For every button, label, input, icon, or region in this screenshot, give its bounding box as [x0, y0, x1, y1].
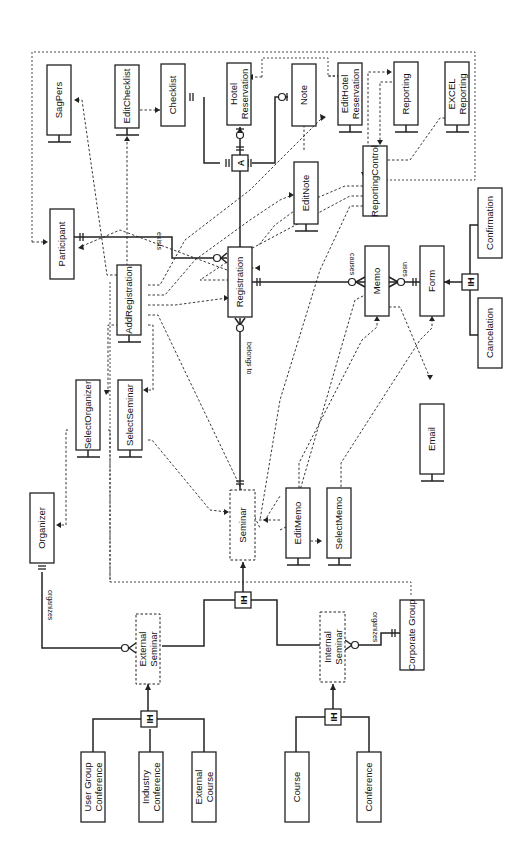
svg-text:Conference: Conference	[151, 762, 162, 811]
svg-text:Reporting: Reporting	[400, 73, 411, 114]
svg-text:Note: Note	[298, 85, 309, 105]
entity-memo[interactable]: Memo	[365, 246, 389, 316]
svg-text:Industry: Industry	[140, 770, 151, 804]
label-belongs-to: belongs to	[245, 342, 253, 374]
label-exists: exists	[156, 232, 163, 250]
entity-external-course[interactable]: External Course	[192, 752, 216, 822]
label-organizes-internal: organizes	[371, 612, 379, 643]
entity-excel-reporting[interactable]: EXCEL Reporting	[445, 62, 469, 132]
svg-text:IH: IH	[466, 278, 476, 287]
entity-course[interactable]: Course	[285, 752, 309, 822]
entity-editmemo[interactable]: EditMemo	[286, 488, 310, 565]
svg-text:Course: Course	[204, 772, 215, 803]
svg-text:Internal: Internal	[322, 631, 333, 663]
svg-text:Confirmation: Confirmation	[484, 196, 495, 250]
entity-corporate-group[interactable]: Corporate Group	[400, 599, 424, 670]
svg-text:Seminar: Seminar	[333, 629, 344, 664]
svg-text:Seminar: Seminar	[237, 507, 248, 542]
svg-text:AddRegistration: AddRegistration	[123, 266, 134, 334]
svg-text:SelectMemo: SelectMemo	[333, 497, 344, 550]
label-organizes-external: organizes	[46, 590, 54, 621]
svg-text:Memo: Memo	[371, 268, 382, 294]
aggregation-symbol: A	[232, 155, 248, 171]
inheritance-symbol-form: IH	[462, 274, 478, 290]
entity-organizer[interactable]: Organizer	[30, 493, 54, 563]
svg-text:EditChecklist: EditChecklist	[121, 68, 132, 123]
svg-text:Conference: Conference	[363, 762, 374, 811]
svg-text:SagPers: SagPers	[53, 82, 64, 119]
svg-text:Hotel: Hotel	[228, 83, 239, 105]
entity-reporting[interactable]: Reporting	[394, 62, 418, 132]
svg-text:ReportingControl: ReportingControl	[369, 145, 380, 217]
entity-cancelation[interactable]: Cancelation	[478, 298, 502, 368]
svg-text:Reporting: Reporting	[457, 73, 468, 114]
svg-text:User Group: User Group	[82, 762, 93, 811]
entity-selectorganizer[interactable]: SelectOrganizer	[76, 380, 100, 457]
entity-sagpers[interactable]: SagPers	[47, 65, 71, 142]
svg-text:EditMemo: EditMemo	[292, 502, 303, 545]
svg-text:EditHotel: EditHotel	[339, 75, 350, 114]
entity-hotel-reservation[interactable]: Hotel Reservation	[227, 63, 251, 125]
entity-email[interactable]: Email	[420, 404, 444, 481]
svg-text:Reservation: Reservation	[350, 69, 361, 120]
label-causes: causes	[349, 253, 356, 276]
entity-editchecklist[interactable]: EditChecklist	[115, 65, 139, 135]
svg-text:IH: IH	[329, 713, 339, 722]
svg-text:Email: Email	[426, 427, 437, 451]
svg-text:Cancelation: Cancelation	[484, 308, 495, 358]
entity-selectseminar[interactable]: SelectSeminar	[118, 380, 142, 457]
svg-text:Reservation: Reservation	[239, 69, 250, 120]
entity-seminar[interactable]: Seminar	[230, 490, 255, 560]
svg-text:Conference: Conference	[93, 762, 104, 811]
entity-confirmation[interactable]: Confirmation	[478, 188, 502, 258]
inheritance-symbol-internal: IH	[325, 709, 341, 725]
entity-note[interactable]: Note	[292, 64, 316, 126]
inheritance-symbol-external: IH	[141, 711, 157, 727]
entity-user-group-conference[interactable]: User Group Conference	[81, 752, 105, 822]
entity-external-seminar[interactable]: External Seminar	[136, 614, 160, 684]
label-uses: uses	[402, 262, 409, 277]
svg-text:Seminar: Seminar	[148, 631, 159, 666]
entity-checklist[interactable]: Checklist	[161, 64, 185, 126]
svg-text:EXCEL: EXCEL	[446, 78, 457, 109]
entity-participant[interactable]: Participant	[50, 209, 74, 279]
entity-industry-conference[interactable]: Industry Conference	[139, 752, 163, 822]
entity-edithotel-reservation[interactable]: EditHotel Reservation	[338, 63, 362, 132]
svg-text:External: External	[193, 770, 204, 805]
entity-editnote[interactable]: EditNote	[294, 162, 318, 231]
svg-text:Organizer: Organizer	[36, 507, 47, 549]
frame-seminar-corporate	[110, 282, 411, 597]
svg-text:IH: IH	[145, 715, 155, 724]
svg-text:External: External	[137, 632, 148, 667]
inheritance-symbol-seminar: IH	[235, 592, 251, 608]
entity-registration[interactable]: Registration	[228, 247, 252, 317]
svg-text:Checklist: Checklist	[167, 75, 178, 114]
entity-selectmemo[interactable]: SelectMemo	[327, 488, 351, 565]
svg-text:Registration: Registration	[234, 257, 245, 308]
entity-internal-seminar[interactable]: Internal Seminar	[320, 612, 345, 682]
svg-text:SelectSeminar: SelectSeminar	[124, 384, 135, 446]
svg-text:SelectOrganizer: SelectOrganizer	[82, 381, 93, 449]
entity-form[interactable]: Form	[420, 246, 444, 316]
svg-text:Form: Form	[426, 270, 437, 292]
svg-text:IH: IH	[239, 596, 249, 605]
entity-addregistration[interactable]: AddRegistration	[117, 265, 141, 342]
svg-text:EditNote: EditNote	[300, 175, 311, 211]
svg-text:Course: Course	[291, 772, 302, 803]
svg-text:Corporate Group: Corporate Group	[406, 599, 417, 670]
svg-text:Participant: Participant	[56, 221, 67, 266]
svg-text:A: A	[236, 159, 246, 166]
er-diagram: A IH IH IH IH	[0, 0, 530, 863]
entity-reportingcontrol[interactable]: ReportingControl	[363, 145, 387, 217]
entity-conference[interactable]: Conference	[357, 752, 381, 822]
